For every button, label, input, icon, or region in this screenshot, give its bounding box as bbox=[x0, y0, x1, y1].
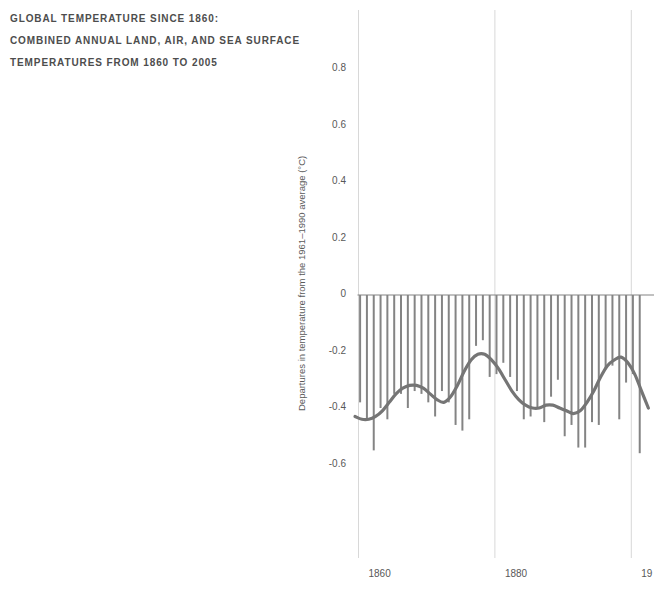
chart-figure: GLOBAL TEMPERATURE SINCE 1860: COMBINED … bbox=[0, 0, 654, 609]
plot-area bbox=[0, 0, 654, 609]
smoothed-trend-line bbox=[355, 354, 648, 420]
